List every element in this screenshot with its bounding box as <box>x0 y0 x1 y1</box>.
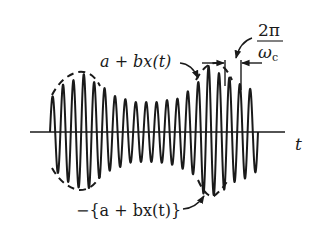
upper-envelope-arrow <box>180 63 198 78</box>
lower-envelope-label: −{a + bx(t)} <box>76 201 181 220</box>
carrier-period-label: 2π ωc <box>257 20 283 64</box>
period-numerator: 2π <box>258 20 280 40</box>
period-label-arrow <box>236 38 252 58</box>
lower-envelope-arrow <box>183 196 204 209</box>
time-axis-label: t <box>295 134 302 154</box>
modulated-carrier-wave <box>50 66 258 195</box>
upper-envelope-label: a + bx(t) <box>100 52 171 71</box>
period-denominator: ωc <box>258 42 278 64</box>
am-waveform-diagram: t a + bx(t) 2π ωc −{a + bx(t)} <box>0 0 326 238</box>
period-dimension <box>202 60 262 90</box>
